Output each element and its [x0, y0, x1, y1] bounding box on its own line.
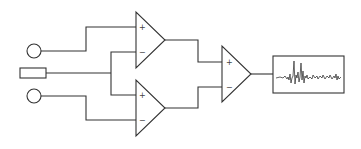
amplifier-3 [222, 46, 251, 102]
wire-reference-branch [111, 52, 136, 95]
electrode-2-circle [27, 89, 41, 103]
wire-electrode1-to-amp1-plus [41, 27, 136, 51]
amp3-plus-sign: + [226, 58, 233, 67]
circuit-svg: + − + − + − [0, 0, 361, 149]
amplifier-2 [136, 80, 165, 136]
wire-electrode2-to-amp2-minus [41, 96, 136, 120]
wire-amp1-to-amp3-plus [165, 40, 222, 62]
reference-electrode-rect [20, 68, 46, 78]
circuit-diagram: + − + − + − [0, 0, 361, 149]
signal-display-box [273, 56, 344, 93]
amplifier-1 [136, 12, 165, 68]
amp1-minus-sign: − [139, 48, 146, 57]
wire-amp2-to-amp3-minus [165, 87, 222, 108]
amp2-minus-sign: − [139, 116, 146, 125]
electrode-1-circle [27, 44, 41, 58]
amp3-minus-sign: − [226, 83, 233, 92]
amp2-plus-sign: + [139, 91, 146, 100]
amp1-plus-sign: + [139, 23, 146, 32]
